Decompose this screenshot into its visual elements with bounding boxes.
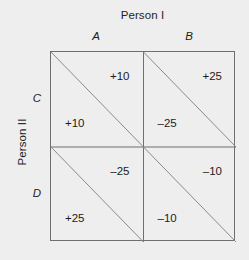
payoff-person-ii-c-b: –25	[158, 117, 177, 129]
payoff-person-ii-d-b: –10	[158, 212, 177, 224]
payoff-person-ii-d-a: +25	[65, 212, 85, 224]
payoff-cell-d-a: –25 +25	[51, 147, 144, 242]
row-strategy-label-d: D	[28, 187, 46, 199]
payoff-person-i-d-a: –25	[110, 165, 129, 177]
payoff-person-i-d-b: –10	[203, 165, 222, 177]
payoff-person-i-c-a: +10	[110, 70, 130, 82]
figure-canvas: Person I Person II A B C D +10 +10 +25 –…	[0, 0, 249, 260]
payoff-person-ii-c-a: +10	[65, 117, 85, 129]
payoff-matrix: +10 +10 +25 –25 –25 +25 –10 –10	[50, 51, 235, 241]
column-strategy-label-a: A	[50, 30, 142, 42]
column-strategy-label-b: B	[143, 30, 235, 42]
payoff-cell-c-b: +25 –25	[144, 52, 237, 147]
payoff-person-i-c-b: +25	[202, 70, 222, 82]
payoff-cell-c-a: +10 +10	[51, 52, 144, 147]
row-strategy-label-c: C	[28, 92, 46, 104]
column-player-title: Person I	[50, 9, 235, 21]
payoff-cell-d-b: –10 –10	[144, 147, 237, 242]
row-player-title: Person II	[16, 82, 28, 202]
